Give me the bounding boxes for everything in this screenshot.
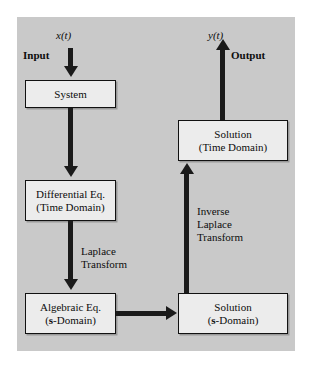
arrow-differential-to-algebraic-shaft [68,221,73,281]
node-algebraic-equation-line-1: Algebraic Eq. [40,301,101,314]
arrow-input-to-system-shaft [68,48,73,68]
node-solution-s-domain-line-1: Solution [214,301,251,314]
arrow-system-to-differential-head-icon [64,166,78,177]
node-algebraic-equation-line-2-suffix: -Domain) [53,314,96,326]
inverse-laplace-line-2: Laplace [197,218,243,231]
node-system-line-1: System [54,88,86,101]
arrow-input-to-system-head-icon [64,66,78,77]
output-label: Output [231,49,265,62]
node-solution-time-domain[interactable]: Solution (Time Domain) [178,120,288,161]
node-solution-s-domain-line-2-suffix: -Domain) [216,314,259,326]
inverse-laplace-line-3: Transform [197,231,243,244]
arrow-algebraic-to-solution-s-head-icon [166,306,177,320]
node-solution-s-domain[interactable]: Solution (s-Domain) [178,293,288,334]
node-solution-s-domain-line-2: (s-Domain) [208,314,259,327]
arrow-solution-time-to-output-shaft [220,48,225,120]
node-algebraic-equation-line-2: (s-Domain) [45,314,96,327]
input-label: Input [23,49,49,62]
node-differential-equation[interactable]: Differential Eq. (Time Domain) [25,180,116,221]
node-system[interactable]: System [25,80,116,108]
arrow-solution-s-to-solution-time-shaft [184,173,189,293]
output-signal-label: y(t) [208,29,223,42]
node-differential-equation-line-1: Differential Eq. [36,188,105,201]
node-algebraic-equation[interactable]: Algebraic Eq. (s-Domain) [25,293,116,334]
arrow-differential-to-algebraic-head-icon [64,279,78,290]
node-solution-time-domain-line-2: (Time Domain) [199,141,267,154]
input-signal-label: x(t) [56,29,71,42]
inverse-laplace-line-1: Inverse [197,205,243,218]
arrow-system-to-differential-shaft [68,108,73,168]
inverse-laplace-transform-label: Inverse Laplace Transform [197,205,243,244]
node-solution-time-domain-line-1: Solution [214,128,251,141]
node-differential-equation-line-2: (Time Domain) [36,201,104,214]
laplace-transform-line-1: Laplace [81,245,127,258]
arrow-solution-s-to-solution-time-head-icon [180,163,194,174]
laplace-transform-label: Laplace Transform [81,245,127,271]
arrow-algebraic-to-solution-s-shaft [116,311,168,316]
laplace-transform-line-2: Transform [81,258,127,271]
diagram-figure: x(t) Input y(t) Output Laplace Transform… [0,0,310,368]
